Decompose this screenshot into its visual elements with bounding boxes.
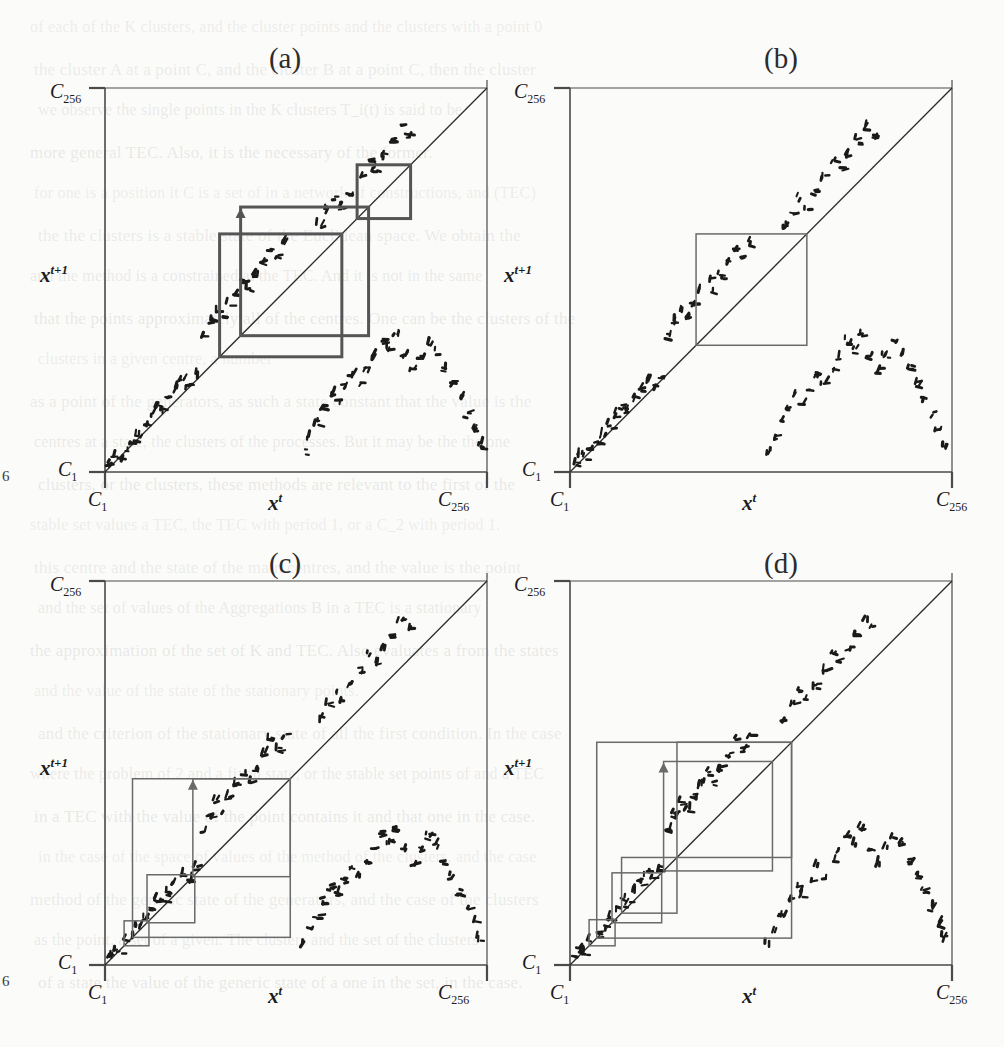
map-dash — [838, 351, 839, 357]
map-dash — [577, 465, 580, 466]
map-dash — [405, 845, 406, 848]
map-dash — [441, 861, 446, 862]
map-dash — [863, 616, 865, 620]
map-dash — [195, 369, 196, 374]
map-dash — [397, 331, 398, 334]
map-dash — [377, 171, 380, 172]
map-dash — [328, 702, 333, 703]
map-dash — [279, 750, 285, 751]
panel-a-xmax-label: C256 — [438, 488, 469, 515]
map-dash — [395, 826, 396, 830]
map-dash — [335, 892, 340, 894]
map-dash — [403, 355, 404, 357]
map-dash — [198, 865, 202, 866]
map-dash — [155, 403, 157, 407]
map-dash — [688, 811, 694, 812]
identity-diagonal — [570, 88, 952, 472]
map-dash — [326, 699, 327, 705]
map-dash — [698, 783, 699, 788]
map-dash — [601, 428, 602, 434]
map-dash — [154, 900, 159, 902]
map-dash — [172, 882, 173, 884]
map-dash — [460, 395, 461, 398]
map-dash — [369, 863, 372, 864]
panel-a-y-axis-title: xt+1 — [40, 262, 68, 288]
map-dash — [883, 842, 886, 848]
map-dash — [405, 134, 409, 135]
map-dash — [107, 954, 109, 957]
panel-d: (d) C256 C1 C1 C256 xt+1 xt — [498, 545, 1004, 1047]
map-dash — [353, 369, 356, 374]
map-dash — [351, 681, 352, 684]
return-map-points — [320, 617, 415, 722]
map-dash — [319, 914, 325, 915]
map-dash — [217, 796, 219, 800]
map-dash — [817, 863, 818, 867]
map-dash — [169, 893, 171, 894]
panel-d-ymax-label: C256 — [514, 573, 545, 600]
map-dash — [111, 953, 112, 958]
map-dash — [475, 921, 481, 922]
map-dash — [718, 765, 719, 769]
map-dash — [380, 835, 386, 837]
panel-b: (b) C256 C1 C1 C256 xt+1 xt — [498, 40, 1004, 542]
map-dash — [473, 425, 475, 429]
map-dash — [597, 932, 602, 933]
return-map-points — [201, 734, 291, 833]
panel-c-xmax-label: C256 — [438, 981, 469, 1008]
map-dash — [858, 822, 860, 827]
map-dash — [256, 766, 257, 768]
map-dash — [349, 195, 352, 196]
map-dash — [864, 130, 870, 131]
map-dash — [230, 796, 234, 797]
map-dash — [708, 772, 710, 773]
map-dash — [684, 806, 686, 810]
map-dash — [734, 735, 736, 738]
panel-b-label: (b) — [736, 42, 826, 75]
map-dash — [481, 448, 486, 449]
map-dash — [814, 860, 816, 866]
cobweb-arrow — [659, 762, 669, 772]
map-dash — [775, 928, 777, 932]
panel-a-ymax-label: C256 — [50, 80, 81, 107]
map-dash — [598, 934, 602, 935]
map-dash — [234, 295, 238, 296]
map-dash — [659, 866, 663, 867]
map-dash — [671, 817, 676, 819]
map-dash — [670, 823, 671, 827]
map-dash — [654, 385, 656, 390]
map-dash — [674, 321, 675, 324]
map-dash — [901, 353, 902, 356]
map-dash — [118, 458, 123, 459]
map-dash — [135, 430, 136, 435]
map-dash — [265, 747, 268, 753]
map-dash — [625, 894, 626, 897]
map-dash — [834, 855, 835, 860]
map-dash — [316, 218, 317, 224]
map-dash — [923, 888, 929, 890]
map-dash — [902, 842, 903, 844]
map-dash — [659, 378, 664, 379]
map-dash — [890, 834, 892, 839]
return-map-points — [574, 375, 664, 467]
map-dash — [750, 242, 751, 246]
map-dash — [799, 198, 801, 201]
map-dash — [184, 378, 185, 380]
map-dash — [382, 151, 384, 154]
panel-c: (c) C256 C1 C1 C256 xt+1 xt — [0, 545, 500, 1047]
map-dash — [467, 906, 468, 908]
map-dash — [345, 882, 348, 883]
panel-a-label: (a) — [240, 42, 330, 75]
map-dash — [372, 168, 373, 171]
map-dash — [798, 687, 799, 689]
map-dash — [329, 705, 334, 707]
map-dash — [856, 345, 858, 348]
map-dash — [866, 358, 871, 360]
map-dash — [710, 276, 711, 282]
map-dash — [651, 875, 652, 878]
map-dash — [638, 879, 643, 881]
map-dash — [268, 739, 273, 740]
map-dash — [425, 839, 430, 841]
map-dash — [478, 442, 479, 445]
map-dash — [384, 645, 385, 650]
